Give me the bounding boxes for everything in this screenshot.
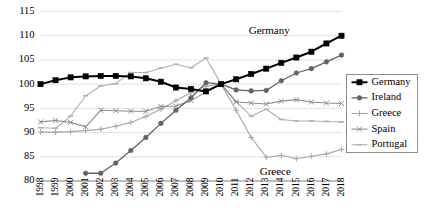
data-point-germany [143, 76, 148, 81]
series-germany [38, 33, 344, 94]
legend-label-ireland: Ireland [372, 91, 402, 102]
data-point-greece [98, 126, 104, 132]
data-point-germany [173, 85, 178, 90]
data-point-germany [324, 41, 329, 46]
data-point-ireland [309, 66, 314, 71]
x-tick-label: 2005 [140, 177, 150, 196]
data-point-germany [203, 89, 208, 94]
data-point-germany [264, 66, 269, 71]
data-point-germany [83, 74, 88, 79]
data-point-ireland [98, 171, 103, 176]
data-point-germany [158, 79, 163, 84]
x-tick-label: 2011 [230, 177, 240, 196]
data-point-greece [128, 120, 134, 126]
data-point-germany [219, 82, 224, 87]
data-point-ireland [83, 171, 88, 176]
data-point-germany [279, 60, 284, 65]
data-point-germany [68, 75, 73, 80]
data-point-greece [339, 147, 345, 153]
data-point-germany [38, 82, 43, 87]
data-point-greece [38, 129, 44, 135]
y-tick-label: 110 [19, 29, 34, 40]
x-tick-label: 2007 [170, 177, 180, 196]
x-tick-label: 2010 [215, 177, 225, 196]
data-point-ireland [189, 95, 194, 100]
x-axis-tick-labels: 1998199920002001200220032004200520062007… [35, 177, 346, 196]
data-point-ireland [249, 89, 254, 94]
data-point-germany [234, 77, 239, 82]
data-point-greece [279, 153, 285, 159]
series-line-ireland [86, 55, 342, 173]
data-point-ireland [339, 53, 344, 58]
data-point-ireland [159, 121, 164, 126]
data-point-ireland [324, 60, 329, 65]
data-point-greece [309, 154, 315, 160]
data-point-ireland [204, 80, 209, 85]
data-series [38, 33, 345, 175]
data-point-ireland [294, 71, 299, 76]
annotation-germany: Germany [249, 24, 290, 36]
x-tick-label: 2004 [125, 177, 135, 196]
x-tick-label: 2000 [65, 177, 75, 196]
data-point-germany [294, 55, 299, 60]
y-axis-tick-labels: 80859095100105110115 [19, 5, 35, 186]
x-tick-label: 2018 [336, 177, 346, 196]
x-tick-label: 2016 [306, 177, 316, 196]
x-tick-label: 2008 [185, 177, 195, 196]
data-point-ireland [264, 88, 269, 93]
legend-label-spain: Spain [372, 123, 397, 134]
data-point-germany [357, 80, 362, 85]
chart-legend: GermanyIrelandGreeceSpainPortugal [347, 75, 418, 153]
x-tick-label: 1998 [35, 177, 45, 196]
data-point-greece [143, 114, 149, 120]
y-tick-label: 90 [24, 126, 35, 137]
x-tick-label: 2013 [260, 177, 270, 196]
data-point-germany [339, 33, 344, 38]
data-point-germany [113, 73, 118, 78]
data-point-greece [68, 129, 74, 135]
data-point-germany [128, 74, 133, 79]
data-point-germany [188, 86, 193, 91]
data-point-greece [53, 129, 59, 135]
x-tick-label: 2017 [321, 177, 331, 196]
data-point-germany [98, 73, 103, 78]
x-tick-label: 2009 [200, 177, 210, 196]
data-point-ireland [234, 88, 239, 93]
data-point-germany [53, 78, 58, 83]
line-chart: 80859095100105110115 1998199920002001200… [0, 0, 430, 224]
data-point-germany [249, 71, 254, 76]
data-point-ireland [174, 108, 179, 113]
data-point-ireland [129, 148, 134, 153]
x-tick-label: 2002 [95, 177, 105, 196]
series-line-germany [41, 36, 342, 92]
annotation-greece: Greece [260, 165, 291, 177]
x-tick-label: 2006 [155, 177, 165, 196]
data-point-ireland [279, 78, 284, 83]
legend-label-germany: Germany [372, 76, 412, 87]
data-point-greece [173, 98, 179, 104]
y-tick-label: 85 [24, 150, 35, 161]
x-tick-label: 2014 [275, 177, 285, 196]
y-tick-label: 95 [24, 102, 35, 113]
x-tick-label: 2003 [110, 177, 120, 196]
legend-label-portugal: Portugal [372, 138, 408, 149]
data-point-ireland [144, 135, 149, 140]
data-point-greece [113, 123, 119, 129]
x-tick-label: 1999 [50, 177, 60, 196]
y-tick-label: 115 [19, 5, 34, 16]
data-point-ireland [357, 96, 362, 101]
y-tick-label: 100 [19, 78, 35, 89]
legend-label-greece: Greece [372, 107, 402, 118]
x-tick-label: 2015 [291, 177, 301, 196]
data-point-ireland [113, 161, 118, 166]
y-tick-label: 105 [19, 53, 35, 64]
chart-canvas: 80859095100105110115 1998199920002001200… [0, 0, 430, 224]
x-tick-label: 2001 [80, 177, 90, 196]
y-tick-label: 80 [24, 174, 35, 185]
data-point-greece [324, 151, 330, 157]
x-tick-label: 2012 [245, 177, 255, 196]
data-point-germany [309, 49, 314, 54]
